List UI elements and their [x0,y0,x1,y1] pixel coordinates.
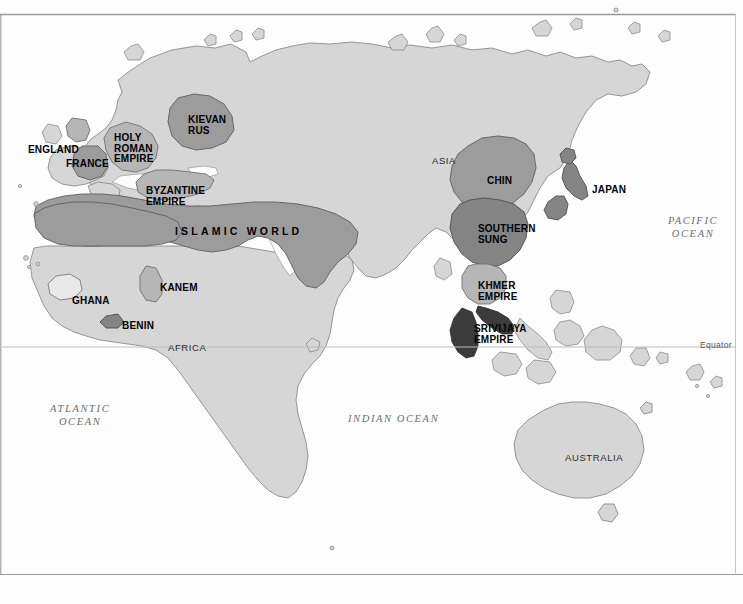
region-england [42,118,90,144]
landmass-australia [514,402,652,522]
region-france [72,146,108,180]
region-southern-sung [450,198,528,266]
region-srivijaya-empire [450,306,514,358]
map-canvas: .land { fill:#d6d6d6; stroke:#8b8b8b; st… [0,0,743,604]
world-map: .land { fill:#d6d6d6; stroke:#8b8b8b; st… [0,0,743,604]
region-khmer-empire [462,264,506,304]
